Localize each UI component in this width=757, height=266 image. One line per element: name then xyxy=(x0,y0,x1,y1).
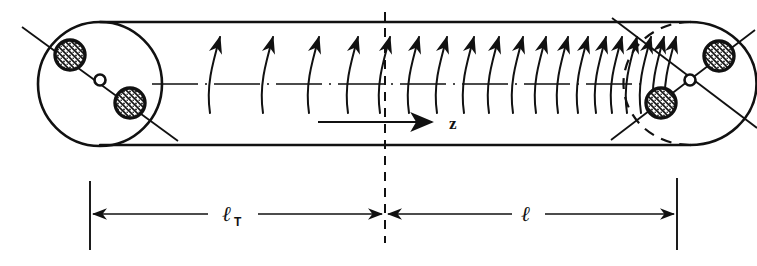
right-coil-assembly xyxy=(611,18,757,140)
field-arrow xyxy=(595,37,606,113)
field-arrow xyxy=(436,37,447,113)
left-coil-winding-upper xyxy=(55,40,85,70)
left-coil-winding-lower xyxy=(115,88,145,118)
dimension-total-length: ℓ T xyxy=(93,202,382,229)
z-axis-label: z xyxy=(449,114,457,133)
right-coil-hub xyxy=(685,75,696,86)
right-end-dashed-arc xyxy=(623,22,690,145)
field-arrow xyxy=(535,37,546,113)
dimension-l-label: ℓ xyxy=(521,202,530,226)
dimension-partial-length: ℓ xyxy=(388,202,674,226)
field-arrow xyxy=(209,37,220,113)
field-arrow xyxy=(408,37,419,113)
field-arrow-group xyxy=(209,37,676,113)
dimension-lt-label: ℓ xyxy=(222,202,231,226)
field-arrow xyxy=(512,37,523,113)
figure-canvas: z ℓ T ℓ xyxy=(0,0,757,266)
field-arrow xyxy=(577,37,588,113)
field-arrow xyxy=(557,37,568,113)
field-arrow xyxy=(308,37,319,113)
dimension-lt-subscript: T xyxy=(234,215,242,229)
z-axis-indicator: z xyxy=(318,114,457,133)
field-arrow xyxy=(463,37,474,113)
solenoid-figure: z ℓ T ℓ xyxy=(0,0,757,266)
right-coil-winding-upper xyxy=(704,41,734,71)
left-coil-hub xyxy=(95,75,106,86)
field-arrow xyxy=(262,37,273,113)
field-arrow xyxy=(488,37,499,113)
field-arrow xyxy=(611,37,622,113)
right-coil-winding-lower xyxy=(646,88,676,118)
right-coil-diagonal-line-a xyxy=(612,18,757,128)
field-arrow xyxy=(347,37,358,113)
right-coil-diagonal-line-b xyxy=(611,30,755,140)
